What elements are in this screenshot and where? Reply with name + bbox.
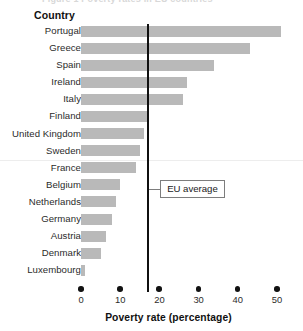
bar-row-label: Belgium [0, 179, 81, 190]
bar-row: Italy [0, 92, 303, 109]
bar-row: Austria [0, 229, 303, 246]
bar-row: Netherlands [0, 195, 303, 212]
bar-row-label: Finland [0, 110, 81, 121]
x-axis: 01020304050 [0, 286, 303, 308]
cropped-caption-text: Figure 1 Poverty rates in EU countries [42, 0, 303, 4]
x-axis-tick-dot [235, 286, 241, 292]
bar-row-label: Netherlands [0, 196, 81, 207]
bar-row-label: Portugal [0, 25, 81, 36]
bar-row-label: Germany [0, 213, 81, 224]
x-axis-tick-dot [156, 286, 162, 292]
x-axis-tick-dot [274, 286, 280, 292]
bar-row-label: Denmark [0, 247, 81, 258]
bar-row: France [0, 161, 303, 178]
bar-row: Denmark [0, 246, 303, 263]
bar [81, 179, 120, 190]
bar [81, 248, 101, 259]
x-axis-tick-label: 20 [145, 294, 173, 305]
bar [81, 26, 281, 37]
bar-row-label: Spain [0, 59, 81, 70]
x-axis-tick-dot [78, 286, 84, 292]
bar [81, 111, 148, 122]
eu-average-callout: EU average [160, 180, 225, 198]
x-axis-tick-label: 0 [67, 294, 95, 305]
bar [81, 43, 250, 54]
bar-row-label: United Kingdom [0, 128, 81, 139]
bar-row: Portugal [0, 24, 303, 41]
bar [81, 145, 140, 156]
bar-row-label: Italy [0, 93, 81, 104]
eu-average-leader-line [149, 189, 160, 190]
x-axis-tick-label: 50 [263, 294, 291, 305]
bar-row-label: Luxembourg [0, 264, 81, 275]
bar-rows: PortugalGreeceSpainIrelandItalyFinlandUn… [0, 24, 303, 280]
bar-row-label: France [0, 162, 81, 173]
bar [81, 196, 116, 207]
bar [81, 77, 187, 88]
bar-row: Finland [0, 109, 303, 126]
x-axis-tick-dot [117, 286, 123, 292]
eu-average-reference-line [147, 24, 149, 292]
poverty-rate-bar-chart: Figure 1 Poverty rates in EU countries C… [0, 0, 303, 331]
bar-row-label: Greece [0, 42, 81, 53]
country-axis-header: Country [34, 9, 75, 21]
x-axis-title-text: Poverty rate (percentage) [105, 312, 232, 323]
bar-row-label: Sweden [0, 145, 81, 156]
bar [81, 214, 112, 225]
bar-row: Ireland [0, 75, 303, 92]
x-axis-tick-dot [196, 286, 202, 292]
x-axis-tick-label: 30 [185, 294, 213, 305]
bar [81, 265, 85, 276]
bar-row: Greece [0, 41, 303, 58]
bar [81, 231, 106, 242]
bar-row-label: Austria [0, 230, 81, 241]
bar-row: Germany [0, 212, 303, 229]
cropped-caption-sliver: Figure 1 Poverty rates in EU countries [0, 0, 303, 7]
bar-row: Luxembourg [0, 263, 303, 280]
bar [81, 162, 136, 173]
bar [81, 94, 183, 105]
bar-row: Sweden [0, 144, 303, 161]
x-axis-title: Poverty rate (percentage) [0, 312, 303, 323]
bar-row: Belgium [0, 178, 303, 195]
bar-row: United Kingdom [0, 127, 303, 144]
bar [81, 128, 144, 139]
bar-row-label: Ireland [0, 76, 81, 87]
x-axis-tick-label: 10 [106, 294, 134, 305]
x-axis-tick-label: 40 [224, 294, 252, 305]
plot-area: PortugalGreeceSpainIrelandItalyFinlandUn… [0, 24, 303, 286]
bar-row: Spain [0, 58, 303, 75]
